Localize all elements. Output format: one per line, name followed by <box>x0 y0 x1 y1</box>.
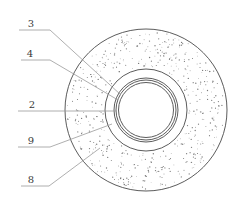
speckle-dot <box>120 167 121 168</box>
speckle-dot <box>97 171 98 172</box>
speckle-dot <box>173 70 174 71</box>
speckle-dot <box>200 162 201 163</box>
speckle-dot <box>124 184 125 185</box>
speckle-dot <box>207 70 208 71</box>
speckle-dot <box>207 95 208 96</box>
speckle-dot <box>180 138 181 139</box>
speckle-dot <box>192 58 193 59</box>
speckle-dot <box>200 111 201 112</box>
speckle-dot <box>210 122 211 123</box>
speckle-dot <box>158 38 159 39</box>
speckle-dot <box>91 76 92 77</box>
speckle-dot <box>109 140 110 141</box>
speckle-dot <box>181 176 182 177</box>
speckle-dot <box>162 47 163 48</box>
speckle-dot <box>200 83 201 84</box>
speckle-dot <box>150 161 151 162</box>
speckle-dot <box>191 147 192 148</box>
speckle-dot <box>161 169 162 170</box>
speckle-dot <box>139 43 140 44</box>
speckle-dot <box>193 154 194 155</box>
speckle-dot <box>105 84 106 85</box>
speckle-dot <box>204 81 205 82</box>
speckle-dot <box>186 153 187 154</box>
speckle-dot <box>173 43 174 44</box>
speckle-dot <box>82 132 83 133</box>
speckle-dot <box>139 156 140 157</box>
speckle-dot <box>214 102 215 103</box>
speckle-dot <box>183 158 184 159</box>
speckle-dot <box>103 151 104 152</box>
speckle-dot <box>145 159 146 160</box>
outer-layer-boundary <box>65 29 227 191</box>
speckle-dot <box>96 71 97 72</box>
speckle-dot <box>186 52 187 53</box>
speckle-dot <box>87 77 88 78</box>
speckle-dot <box>92 127 93 128</box>
speckle-dot <box>104 172 105 173</box>
speckle-dot <box>121 36 122 37</box>
speckle-dot <box>209 135 210 136</box>
speckle-dot <box>124 153 125 154</box>
speckle-dot <box>198 124 199 125</box>
speckle-dot <box>213 144 214 145</box>
speckle-dot <box>194 136 195 137</box>
speckle-dot <box>80 87 81 88</box>
speckle-dot <box>200 154 201 155</box>
speckle-dot <box>214 97 215 98</box>
speckle-dot <box>159 171 160 172</box>
speckle-dot <box>123 43 124 44</box>
speckle-dot <box>89 130 90 131</box>
speckle-dot <box>84 87 85 88</box>
speckle-dot <box>182 144 183 145</box>
speckle-dot <box>193 157 194 158</box>
speckle-dot <box>167 63 168 64</box>
speckle-dot <box>157 49 158 50</box>
speckle-dot <box>100 71 101 72</box>
speckle-dot <box>168 46 169 47</box>
speckle-dot <box>72 92 73 93</box>
part-label-9: 9 <box>28 136 34 146</box>
speckle-dot <box>94 82 95 83</box>
cross-section-diagram <box>0 0 241 209</box>
speckle-dot <box>77 114 78 115</box>
speckle-dot <box>160 55 161 56</box>
speckle-dot <box>214 87 215 88</box>
speckle-dot <box>126 48 127 49</box>
speckle-dot <box>195 154 196 155</box>
speckle-dot <box>83 69 84 70</box>
speckle-dot <box>115 48 116 49</box>
speckle-dot <box>182 43 183 44</box>
speckle-dot <box>200 82 201 83</box>
speckle-dot <box>200 67 201 68</box>
speckle-dot <box>89 151 90 152</box>
speckle-dot <box>131 176 132 177</box>
speckle-dot <box>212 80 213 81</box>
speckle-dot <box>218 109 219 110</box>
leader-line-4 <box>21 60 118 100</box>
speckle-dot <box>171 60 172 61</box>
speckle-dot <box>135 167 136 168</box>
speckle-dot <box>76 109 77 110</box>
speckle-dot <box>213 70 214 71</box>
speckle-dot <box>139 61 140 62</box>
speckle-dot <box>87 96 88 97</box>
speckle-dot <box>181 42 182 43</box>
speckle-dot <box>87 100 88 101</box>
speckle-dot <box>101 171 102 172</box>
speckle-dot <box>130 183 131 184</box>
speckle-dot <box>142 155 143 156</box>
speckle-dot <box>198 140 199 141</box>
speckle-dot <box>147 167 148 168</box>
speckle-dot <box>185 162 186 163</box>
speckle-dot <box>188 94 189 95</box>
speckle-dot <box>99 136 100 137</box>
speckle-dot <box>89 124 90 125</box>
speckle-dot <box>99 141 100 142</box>
speckle-dot <box>80 148 81 149</box>
speckle-dot <box>177 140 178 141</box>
speckle-dot <box>92 80 93 81</box>
speckle-dot <box>197 52 198 53</box>
speckle-dot <box>129 170 130 171</box>
speckle-dot <box>177 146 178 147</box>
